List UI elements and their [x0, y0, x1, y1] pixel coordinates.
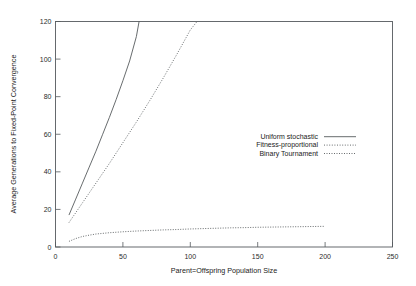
x-tick-label: 100 — [184, 253, 196, 260]
y-tick-label: 120 — [40, 18, 52, 25]
series-line-binary-tournament — [69, 226, 325, 241]
y-tick-label: 40 — [44, 168, 52, 175]
y-axis-ticks: 020406080100120 — [40, 18, 61, 251]
x-axis-title: Parent=Offspring Population Size — [171, 266, 277, 275]
y-tick-label: 100 — [40, 56, 52, 63]
y-tick-label: 60 — [44, 131, 52, 138]
series-line-uniform-stochastic — [69, 22, 139, 216]
y-tick-label: 0 — [48, 244, 52, 251]
x-tick-label: 50 — [119, 253, 127, 260]
y-tick-label: 20 — [44, 206, 52, 213]
chart-svg: 020406080100120 050100150200250 Uniform … — [0, 0, 416, 286]
x-tick-label: 250 — [387, 253, 399, 260]
legend-label-2: Binary Tournament — [259, 150, 318, 158]
x-axis-ticks: 050100150200250 — [54, 242, 399, 260]
y-axis-title: Average Generations to Fixed-Point Conve… — [9, 55, 18, 214]
x-tick-label: 200 — [319, 253, 331, 260]
series-line-fitness-proportional — [69, 22, 197, 223]
x-tick-label: 0 — [54, 253, 58, 260]
y-tick-label: 80 — [44, 93, 52, 100]
chart-figure: 020406080100120 050100150200250 Uniform … — [0, 0, 416, 286]
legend-label-1: Fitness-proportional — [256, 141, 318, 149]
chart-legend: Uniform stochasticFitness-proportionalBi… — [256, 133, 356, 158]
series-group — [69, 22, 325, 242]
x-tick-label: 150 — [252, 253, 264, 260]
plot-frame — [56, 22, 393, 248]
legend-label-0: Uniform stochastic — [260, 133, 318, 140]
